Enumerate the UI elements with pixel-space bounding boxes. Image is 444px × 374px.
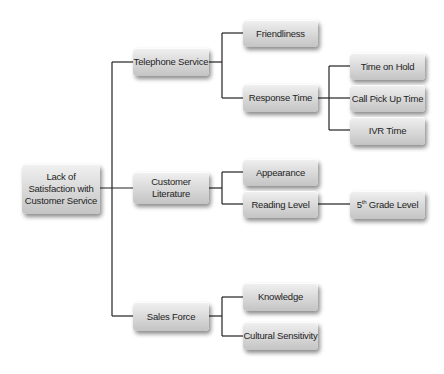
node-label: Friendliness [256, 28, 305, 40]
node-label: 5th Grade Level [357, 199, 419, 211]
node-label: Appearance [256, 167, 305, 179]
node-label: Cultural Sensitivity [243, 330, 317, 342]
root-node: Lack of Satisfaction with Customer Servi… [22, 164, 100, 214]
node-knowledge: Knowledge [243, 283, 318, 311]
node-label-line-1: Customer [151, 176, 191, 188]
node-5th-grade-level: 5th Grade Level [350, 191, 425, 219]
node-call-pick-up-time: Call Pick Up Time [350, 85, 425, 112]
node-reading-level: Reading Level [243, 191, 318, 218]
node-appearance: Appearance [243, 159, 318, 186]
node-sales-force: Sales Force [133, 302, 209, 331]
root-label-line-2: Satisfaction with [28, 183, 93, 195]
node-label: Sales Force [147, 311, 196, 323]
node-label: Call Pick Up Time [352, 93, 424, 105]
node-ivr-time: IVR Time [350, 117, 425, 145]
node-label: Telephone Service [134, 56, 209, 68]
node-telephone-service: Telephone Service [133, 48, 209, 76]
node-label: IVR Time [369, 125, 406, 137]
node-label: Response Time [249, 92, 312, 104]
node-label: Reading Level [251, 199, 309, 211]
root-label-line-3: Customer Service [25, 195, 97, 207]
node-response-time: Response Time [243, 84, 318, 112]
root-label-line-1: Lack of [46, 171, 75, 183]
node-customer-literature: Customer Literature [133, 172, 209, 204]
node-label-line-2: Literature [152, 188, 190, 200]
node-label: Time on Hold [361, 61, 415, 73]
node-label: Knowledge [258, 291, 303, 303]
node-friendliness: Friendliness [243, 20, 318, 47]
node-time-on-hold: Time on Hold [350, 53, 425, 80]
node-cultural-sensitivity: Cultural Sensitivity [243, 322, 318, 350]
tree-diagram: Lack of Satisfaction with Customer Servi… [0, 0, 444, 374]
